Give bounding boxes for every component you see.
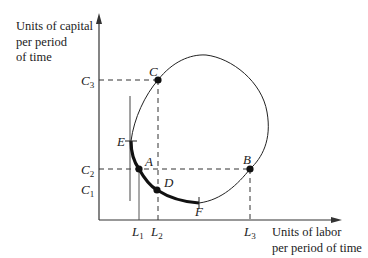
- isoquant-diagram: Units of capital per period of time Unit…: [0, 0, 368, 258]
- y-tick-c1: C1: [81, 182, 94, 199]
- x-tick-l2: L2: [150, 224, 163, 241]
- x-axis-arrow-icon: [331, 217, 342, 223]
- y-axis-label: Units of capital per period of time: [16, 19, 96, 64]
- point-d-dot: [153, 186, 160, 193]
- y-tick-c3: C3: [81, 73, 95, 90]
- x-axis-label: Units of labor per period of time: [272, 225, 362, 255]
- point-e-label: E: [116, 134, 125, 149]
- x-tick-l3: L3: [243, 224, 256, 241]
- point-d-label: D: [163, 175, 174, 190]
- economic-region-curve: [131, 141, 199, 203]
- point-b-label: B: [243, 152, 251, 167]
- point-a-dot: [135, 165, 142, 172]
- x-tick-l1: L1: [131, 224, 144, 241]
- point-c-label: C: [149, 64, 158, 79]
- y-axis-arrow-icon: [96, 13, 102, 24]
- y-tick-c2: C2: [81, 162, 94, 179]
- point-f-label: F: [194, 204, 204, 219]
- point-a-label: A: [144, 154, 153, 169]
